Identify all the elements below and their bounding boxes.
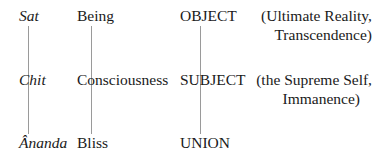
gloss-row2-line2: Immanence) [283, 90, 360, 107]
sanskrit-term-ananda: Ânanda [19, 134, 67, 151]
english-term-consciousness: Consciousness [77, 71, 168, 88]
gloss-row1-line1: (Ultimate Reality, [261, 7, 372, 24]
category-object: OBJECT [180, 7, 237, 24]
sanskrit-term-sat: Sat [19, 7, 39, 24]
category-subject: SUBJECT [180, 71, 245, 88]
english-term-bliss: Bliss [77, 134, 108, 151]
sanskrit-term-chit: Chit [19, 71, 46, 88]
gloss-row1-line2: Transcendence) [274, 26, 372, 43]
english-term-being: Being [77, 7, 114, 24]
gloss-row2-line1: (the Supreme Self, [256, 71, 372, 88]
category-union: UNION [180, 134, 230, 151]
